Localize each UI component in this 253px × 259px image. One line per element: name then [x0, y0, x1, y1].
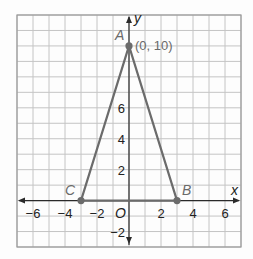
y-axis-arrow-down-icon: [126, 237, 132, 244]
x-tick-label: 2: [157, 206, 164, 221]
axes: [18, 16, 240, 245]
x-tick-label: −4: [58, 206, 73, 221]
vertex-c-dot: [77, 197, 84, 204]
y-tick-label: 4: [118, 132, 125, 147]
point-labels: xyOA(0, 10)BC: [65, 10, 239, 221]
origin-label: O: [115, 205, 126, 221]
y-tick-label: 2: [118, 163, 125, 178]
vertex-a-coordinates: (0, 10): [135, 38, 173, 53]
vertex-c-label: C: [65, 182, 76, 198]
vertex-a-dot: [125, 42, 132, 49]
x-tick-label: −2: [90, 206, 105, 221]
x-axis-arrow-right-icon: [233, 198, 240, 204]
vertex-b-dot: [173, 197, 180, 204]
y-tick-label: 6: [118, 101, 125, 116]
x-tick-label: −6: [26, 206, 41, 221]
y-axis-arrow-up-icon: [126, 16, 132, 23]
vertex-b-label: B: [182, 182, 191, 198]
x-axis-arrow-left-icon: [18, 198, 25, 204]
x-tick-label: 6: [221, 206, 228, 221]
x-tick-label: 4: [189, 206, 196, 221]
coordinate-plane: −6−4−2246642−2 xyOA(0, 10)BC: [0, 0, 253, 259]
y-axis-label: y: [133, 10, 142, 26]
vertex-a-label: A: [114, 27, 124, 43]
y-tick-label: −2: [110, 225, 125, 240]
x-axis-label: x: [230, 182, 239, 198]
